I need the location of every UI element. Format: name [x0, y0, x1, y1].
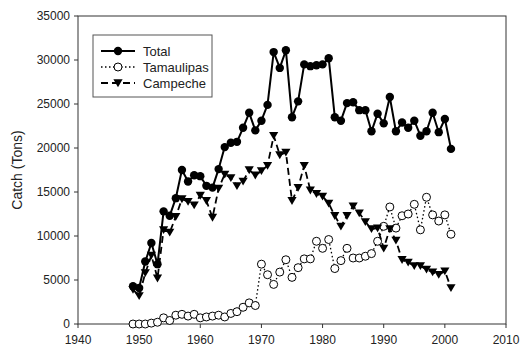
data-point	[447, 145, 455, 153]
data-point	[324, 54, 332, 62]
data-point	[325, 236, 333, 244]
legend-label-total: Total	[143, 44, 171, 59]
data-point	[386, 203, 394, 211]
y-tick-label: 25000	[37, 97, 71, 111]
data-point	[447, 230, 455, 238]
x-tick-label: 1980	[309, 333, 336, 347]
data-point	[166, 212, 174, 220]
data-point	[172, 194, 180, 202]
data-point	[331, 265, 339, 273]
legend-marker-total	[114, 47, 122, 55]
data-point	[429, 211, 437, 219]
data-point	[257, 117, 265, 125]
data-point	[343, 244, 351, 252]
data-point	[386, 93, 394, 101]
data-point	[434, 271, 443, 279]
data-point	[392, 127, 400, 135]
y-axis-label: Catch (Tons)	[9, 130, 25, 209]
data-point	[288, 273, 296, 281]
data-point	[178, 166, 186, 174]
data-point	[379, 245, 388, 253]
data-point	[269, 132, 278, 140]
data-point	[349, 98, 357, 106]
y-tick-label: 20000	[37, 141, 71, 155]
data-point	[288, 113, 296, 121]
catch-line-chart: 1940195019601970198019902000201005000100…	[0, 0, 526, 362]
x-tick-label: 1940	[65, 333, 92, 347]
data-point	[306, 255, 314, 263]
data-point	[141, 257, 149, 265]
x-tick-label: 1970	[248, 333, 275, 347]
data-point	[404, 210, 412, 218]
data-point	[435, 217, 443, 225]
data-point	[367, 127, 375, 135]
data-point	[202, 197, 211, 205]
data-point	[422, 127, 430, 135]
data-point	[294, 184, 303, 192]
data-point	[226, 174, 235, 182]
x-tick-label: 2010	[493, 333, 520, 347]
data-point	[251, 302, 259, 310]
data-point	[441, 211, 449, 219]
data-point	[342, 212, 351, 220]
y-tick-label: 15000	[37, 185, 71, 199]
data-point	[380, 119, 388, 127]
data-point	[324, 200, 333, 208]
data-point	[251, 172, 260, 180]
data-point	[373, 109, 381, 117]
y-tick-label: 35000	[37, 9, 71, 23]
data-point	[287, 197, 296, 205]
data-point	[428, 109, 436, 117]
data-point	[319, 244, 327, 252]
data-point	[190, 202, 199, 210]
data-point	[318, 60, 326, 68]
data-point	[404, 124, 412, 132]
data-point	[263, 101, 271, 109]
x-tick-label: 1950	[126, 333, 153, 347]
data-point	[184, 177, 192, 185]
data-point	[410, 200, 418, 208]
data-point	[153, 275, 162, 283]
data-point	[270, 280, 278, 288]
data-point	[446, 284, 455, 292]
data-point	[147, 239, 155, 247]
x-tick-label: 2000	[432, 333, 459, 347]
data-point	[416, 226, 424, 234]
data-point	[337, 117, 345, 125]
data-point	[441, 115, 449, 123]
data-point	[423, 193, 431, 201]
data-point	[336, 223, 345, 231]
data-point	[355, 209, 364, 217]
data-point	[232, 182, 241, 190]
data-point	[349, 202, 358, 210]
data-point	[337, 257, 345, 265]
y-tick-label: 10000	[37, 229, 71, 243]
data-point	[294, 264, 302, 272]
data-point	[208, 214, 217, 222]
data-point	[435, 128, 443, 136]
y-tick-label: 5000	[43, 273, 70, 287]
legend-label-campeche: Campeche	[143, 76, 206, 91]
data-point	[251, 126, 259, 134]
data-point	[196, 172, 204, 180]
data-point	[282, 256, 290, 264]
data-point	[282, 46, 290, 54]
data-point	[330, 212, 339, 220]
x-tick-label: 1990	[370, 333, 397, 347]
data-point	[208, 183, 216, 191]
data-point	[276, 268, 284, 276]
data-point	[239, 124, 247, 132]
data-point	[361, 106, 369, 114]
data-point	[257, 260, 265, 268]
legend-label-tamaulipas: Tamaulipas	[143, 60, 209, 75]
data-point	[165, 229, 174, 237]
data-point	[135, 292, 144, 300]
y-tick-label: 30000	[37, 53, 71, 67]
data-point	[367, 250, 375, 258]
x-tick-label: 1960	[187, 333, 214, 347]
data-point	[269, 48, 277, 56]
legend-marker-tamaulipas	[114, 63, 122, 71]
data-point	[233, 138, 241, 146]
data-point	[410, 117, 418, 125]
data-point	[276, 64, 284, 72]
